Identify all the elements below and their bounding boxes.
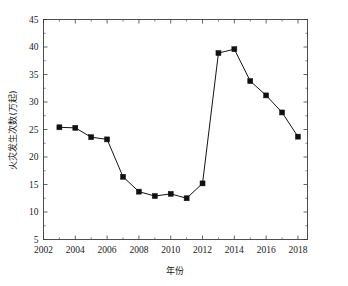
chart-canvas: 51015202530354045 2002200420062008201020… (0, 0, 348, 286)
plot-frame (44, 20, 308, 240)
y-axis-title: 火灾发生次数(万起) (7, 90, 18, 169)
data-point (136, 189, 141, 194)
y-tick-label: 10 (29, 207, 39, 217)
y-tick-label: 45 (29, 15, 39, 25)
data-point (232, 47, 237, 52)
series-markers (57, 47, 301, 201)
x-tick-label: 2010 (161, 245, 180, 255)
data-point (89, 135, 94, 140)
y-tick-label: 5 (34, 235, 39, 245)
y-axis-minor-ticks (44, 33, 308, 226)
x-tick-label: 2002 (34, 245, 53, 255)
x-tick-label: 2004 (66, 245, 85, 255)
y-tick-label: 35 (29, 70, 39, 80)
x-tick-label: 2008 (129, 245, 148, 255)
y-tick-label: 25 (29, 125, 39, 135)
data-point (280, 110, 285, 115)
data-point (121, 174, 126, 179)
plot-area-border (44, 20, 308, 240)
x-axis-minor-ticks (59, 20, 282, 240)
data-point (264, 93, 269, 98)
series-line (59, 49, 298, 198)
y-tick-label: 30 (29, 97, 39, 107)
data-point (152, 194, 157, 199)
data-point (248, 79, 253, 84)
x-tick-label: 2006 (98, 245, 117, 255)
data-point (216, 51, 221, 56)
data-point (200, 181, 205, 186)
x-tick-label: 2016 (257, 245, 276, 255)
x-tick-label: 2014 (225, 245, 244, 255)
x-tick-label: 2012 (193, 245, 212, 255)
y-axis-ticks (44, 20, 308, 240)
y-tick-label: 15 (29, 180, 39, 190)
x-axis-ticks (44, 20, 298, 240)
data-point (105, 137, 110, 142)
y-tick-label: 20 (29, 152, 39, 162)
x-tick-label: 2018 (288, 245, 307, 255)
data-point (295, 134, 300, 139)
line-chart: 51015202530354045 2002200420062008201020… (0, 0, 348, 286)
y-tick-label: 40 (29, 42, 39, 52)
data-point (57, 125, 62, 130)
y-axis-tick-labels: 51015202530354045 (29, 15, 39, 245)
data-point (184, 196, 189, 201)
x-axis-title: 年份 (166, 265, 184, 276)
data-point (168, 191, 173, 196)
data-series (57, 47, 301, 201)
x-axis-tick-labels: 200220042006200820102012201420162018 (34, 245, 308, 255)
data-point (73, 125, 78, 130)
